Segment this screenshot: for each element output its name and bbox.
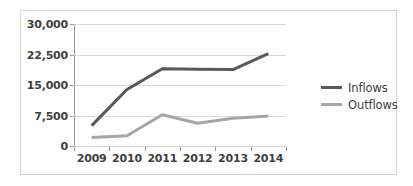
- y-axis-tick-label: 15,000: [27, 79, 68, 92]
- gridline: [74, 146, 286, 147]
- x-axis-tick-label: 2011: [147, 152, 177, 165]
- x-axis-tick-label: 2009: [77, 152, 107, 165]
- x-axis-tick-label: 2010: [112, 152, 142, 165]
- x-tick-mark: [215, 147, 216, 151]
- series-line-inflows: [92, 54, 269, 126]
- plot-area: [74, 24, 286, 146]
- legend-swatch-icon: [321, 86, 342, 89]
- y-axis-tick-label: 0: [61, 140, 68, 153]
- x-tick-mark: [180, 147, 181, 151]
- legend-item-outflows[interactable]: Outflows: [321, 96, 398, 113]
- y-axis-tick-label: 30,000: [27, 18, 68, 31]
- x-axis-tick-label: 2013: [218, 152, 248, 165]
- x-axis-tick-label: 2014: [253, 152, 283, 165]
- series-lines: [74, 24, 286, 146]
- legend-item-inflows[interactable]: Inflows: [321, 79, 398, 96]
- chart-frame: 07,50015,00022,50030,000 200920102011201…: [20, 10, 397, 175]
- y-axis-tick-label: 7,500: [34, 109, 68, 122]
- x-axis-tick-label: 2012: [183, 152, 213, 165]
- chart-legend: InflowsOutflows: [321, 79, 398, 113]
- x-tick-mark: [286, 147, 287, 151]
- y-axis-tick-label: 22,500: [27, 48, 68, 61]
- x-tick-mark: [74, 147, 75, 151]
- x-tick-mark: [251, 147, 252, 151]
- x-tick-mark: [145, 147, 146, 151]
- x-tick-mark: [109, 147, 110, 151]
- legend-item-label: Inflows: [348, 81, 388, 95]
- legend-swatch-icon: [321, 103, 342, 106]
- series-line-outflows: [92, 115, 269, 138]
- legend-item-label: Outflows: [348, 98, 398, 112]
